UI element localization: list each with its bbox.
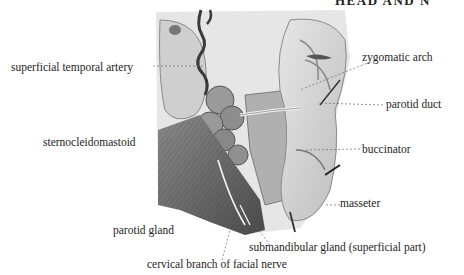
label-sternocleidomastoid: sternocleidomastoid — [43, 137, 136, 149]
label-masseter: masseter — [340, 198, 380, 210]
label-submandibular-gland: submandibular gland (superficial part) — [249, 242, 426, 254]
label-superficial-temporal-artery: superficial temporal artery — [11, 62, 133, 74]
label-buccinator: buccinator — [362, 144, 411, 156]
label-parotid-gland: parotid gland — [113, 225, 174, 237]
label-parotid-duct: parotid duct — [386, 99, 441, 111]
facial-muscles — [279, 19, 347, 220]
label-cervical-branch: cervical branch of facial nerve — [147, 259, 287, 271]
label-zygomatic-arch: zygomatic arch — [362, 52, 433, 64]
